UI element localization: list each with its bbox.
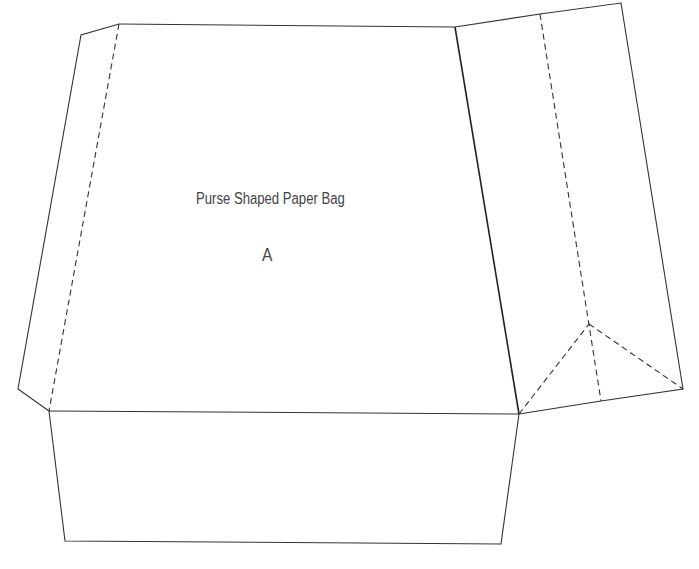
- template-title: Purse Shaped Paper Bag: [196, 190, 345, 208]
- gusset-left-diagonal-fold: [519, 324, 589, 414]
- bag-template-diagram: [0, 0, 699, 569]
- main-panel-right-edge: [455, 27, 519, 414]
- gusset-center-fold-line: [540, 14, 601, 401]
- main-panel-top-edge: [119, 24, 455, 27]
- left-flap-fold-line: [49, 24, 119, 411]
- main-panel-bottom-edge: [49, 411, 519, 414]
- bottom-panel-outline: [49, 411, 519, 544]
- left-flap-outline: [18, 24, 119, 411]
- piece-label: A: [262, 244, 272, 266]
- gusset-right-diagonal-fold: [589, 324, 683, 389]
- gusset-panel-outline: [455, 3, 683, 414]
